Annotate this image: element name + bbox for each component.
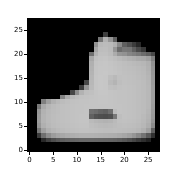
x-tick-label: 5 — [51, 156, 55, 164]
x-tick-mark — [53, 152, 54, 155]
matplotlib-figure: 0510152025 0510152025 — [0, 0, 173, 178]
y-tick-label: 5 — [19, 122, 23, 130]
y-tick-mark — [24, 126, 27, 127]
y-tick-mark — [24, 150, 27, 151]
x-tick-label: 15 — [96, 156, 105, 164]
x-tick-mark — [124, 152, 125, 155]
x-tick-mark — [77, 152, 78, 155]
x-tick-label: 20 — [120, 156, 129, 164]
y-tick-mark — [24, 30, 27, 31]
x-tick-label: 25 — [144, 156, 153, 164]
y-tick-mark — [24, 54, 27, 55]
y-tick-label: 10 — [14, 98, 23, 106]
y-tick-label: 0 — [19, 146, 23, 154]
x-tick-label: 0 — [27, 156, 31, 164]
y-tick-mark — [24, 78, 27, 79]
y-tick-mark — [24, 102, 27, 103]
image-axes — [27, 18, 160, 152]
y-tick-label: 15 — [14, 74, 23, 82]
x-tick-mark — [101, 152, 102, 155]
x-tick-mark — [29, 152, 30, 155]
y-tick-label: 25 — [14, 26, 23, 34]
grayscale-image-plot — [27, 18, 160, 152]
y-tick-label: 20 — [14, 50, 23, 58]
x-tick-label: 10 — [72, 156, 81, 164]
x-tick-mark — [148, 152, 149, 155]
